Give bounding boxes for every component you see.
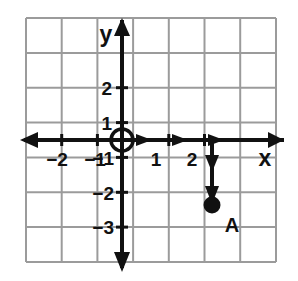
point-a-label: A: [225, 214, 239, 236]
tick-label-y-neg1: −1: [92, 148, 114, 169]
tick-label-x-neg2: −2: [46, 149, 68, 170]
coordinate-plane-figure: y x −2 −1 1 2 2 1 −1 −2 −3 A: [0, 0, 298, 281]
tick-label-y-neg2: −2: [92, 183, 114, 204]
tick-label-y-neg3: −3: [92, 217, 114, 238]
tick-label-y-pos1: 1: [101, 113, 112, 134]
x-axis-label: x: [259, 145, 272, 171]
graph-canvas: y x −2 −1 1 2 2 1 −1 −2 −3 A: [0, 0, 298, 281]
tick-label-x-pos1: 1: [151, 149, 162, 170]
tick-label-x-pos2: 2: [187, 149, 198, 170]
y-axis-label: y: [100, 21, 113, 47]
point-a-marker[interactable]: [204, 197, 221, 214]
tick-label-y-pos2: 2: [101, 78, 112, 99]
